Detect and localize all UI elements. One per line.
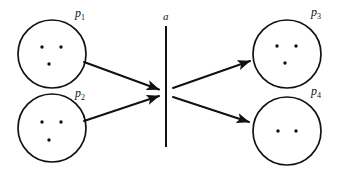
arrow-p2-to-barrier (84, 96, 159, 121)
node-p1: p1 (18, 6, 86, 88)
node-p3-dot-2 (294, 44, 297, 47)
arrow-barrier-to-p3 (173, 61, 250, 88)
node-p2-circle (18, 94, 86, 162)
node-p4-dot-1 (276, 129, 279, 132)
interaction-barrier: a (163, 10, 169, 147)
barrier-label: a (163, 10, 169, 22)
node-p3-circle (253, 20, 321, 88)
node-p4-dot-2 (294, 129, 297, 132)
node-p3-dot-1 (275, 44, 278, 47)
diagram-canvas: p1 p2 p3 (0, 0, 339, 178)
node-p1-label: p1 (74, 6, 85, 22)
node-p2-dot-3 (47, 138, 50, 141)
node-p1-dot-1 (40, 45, 43, 48)
node-p3-label: p3 (310, 5, 321, 21)
node-p4-label: p4 (310, 84, 321, 100)
node-p4-circle (253, 97, 321, 165)
node-p2-dot-1 (40, 120, 43, 123)
node-p2-label-subscript: 2 (81, 93, 85, 102)
arrow-barrier-to-p4 (173, 97, 249, 122)
node-p1-circle (18, 20, 86, 88)
node-p4-label-subscript: 4 (317, 91, 321, 100)
arrow-p1-to-barrier (84, 62, 159, 90)
particle-interaction-diagram: p1 p2 p3 (0, 0, 339, 178)
node-p2-dot-2 (59, 120, 62, 123)
node-p4: p4 (253, 84, 321, 165)
node-p1-dot-2 (59, 45, 62, 48)
node-p2-label: p2 (74, 86, 85, 102)
node-p2: p2 (18, 86, 86, 162)
node-p1-label-subscript: 1 (81, 13, 85, 22)
node-p3-dot-3 (283, 61, 286, 64)
node-p1-dot-3 (47, 62, 50, 65)
node-p3: p3 (253, 5, 321, 88)
node-p3-label-subscript: 3 (317, 12, 321, 21)
